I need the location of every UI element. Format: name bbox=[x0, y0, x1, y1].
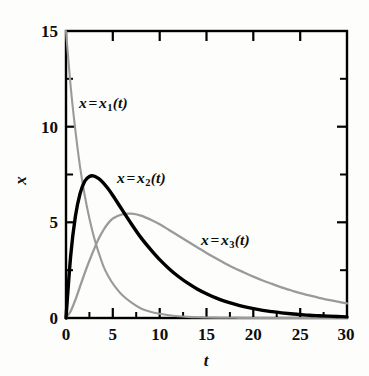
curve-label-x3: x=x3(t) bbox=[201, 232, 250, 250]
curve-label-x2: x=x2(t) bbox=[117, 170, 166, 188]
label-x2-base: x bbox=[137, 169, 145, 186]
xtick-label-10: 10 bbox=[151, 326, 168, 343]
xtick-label-25: 25 bbox=[292, 326, 309, 343]
label-x1-prefix: x bbox=[79, 94, 87, 111]
x-axis-title: t bbox=[204, 352, 209, 369]
curve-x1 bbox=[66, 31, 347, 318]
xtick-label-30: 30 bbox=[338, 326, 355, 343]
curve-label-x1: x=x1(t) bbox=[79, 95, 128, 113]
label-x2-prefix: x bbox=[117, 169, 125, 186]
ytick-label-5: 5 bbox=[28, 214, 58, 231]
label-x1-equals: = bbox=[87, 94, 99, 111]
label-x3-base: x bbox=[221, 231, 229, 248]
xtick-label-0: 0 bbox=[62, 326, 71, 343]
label-x3-equals: = bbox=[209, 231, 221, 248]
label-x1-base: x bbox=[99, 94, 107, 111]
label-x3-prefix: x bbox=[201, 231, 209, 248]
ytick-label-0: 0 bbox=[28, 310, 58, 327]
ytick-label-15: 15 bbox=[28, 23, 58, 40]
label-x3-suffix: (t) bbox=[235, 231, 250, 248]
ytick-label-10: 10 bbox=[28, 118, 58, 135]
curve-x3 bbox=[66, 214, 347, 318]
xtick-label-20: 20 bbox=[245, 326, 262, 343]
label-x2-suffix: (t) bbox=[151, 169, 166, 186]
label-x1-suffix: (t) bbox=[113, 94, 128, 111]
label-x2-equals: = bbox=[125, 169, 137, 186]
axis-minor-ticks bbox=[66, 79, 347, 318]
chart-figure: 15 10 5 0 0 5 10 15 20 25 30 t x x=x1(t)… bbox=[0, 0, 369, 376]
data-curves bbox=[66, 31, 347, 318]
y-axis-title: x bbox=[12, 176, 29, 185]
xtick-label-5: 5 bbox=[109, 326, 118, 343]
xtick-label-15: 15 bbox=[198, 326, 215, 343]
